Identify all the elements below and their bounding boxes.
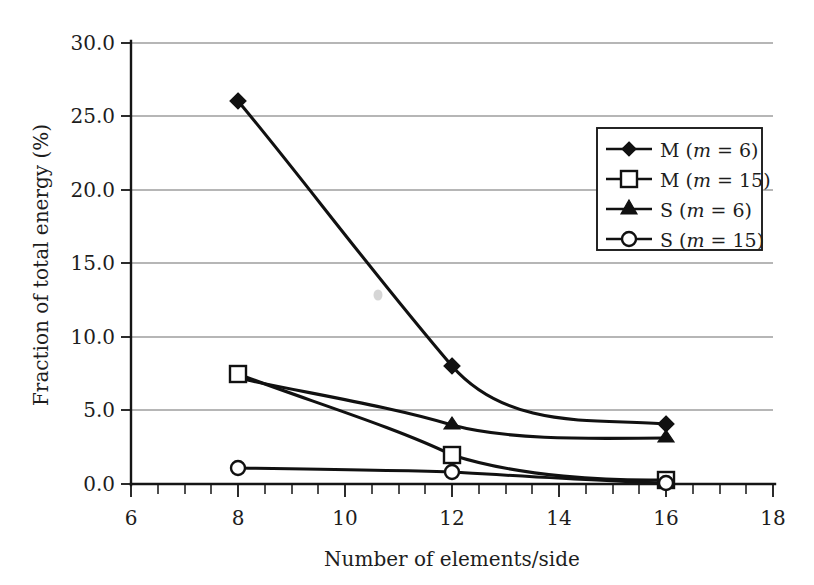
marker-s-15-x12[interactable] [445, 465, 459, 479]
y-tick-label-30: 30.0 [70, 31, 115, 55]
marker-m-15-x8[interactable] [230, 366, 246, 382]
chart-legend: M (m = 6) M (m = 15) S (m = 6) S (m = 15… [597, 128, 771, 251]
x-tick-label-18: 18 [760, 506, 785, 530]
chart-background [0, 0, 814, 585]
line-chart-canvas: 30.0 25.0 20.0 15.0 10.0 5.0 0.0 [0, 0, 814, 585]
y-tick-label-25: 25.0 [70, 104, 115, 128]
legend-label-m-15: M (m = 15) [660, 169, 771, 191]
y-tick-label-10: 10.0 [70, 325, 115, 349]
legend-label-s-15: S (m = 15) [660, 229, 764, 251]
legend-label-m-6: M (m = 6) [660, 139, 758, 161]
x-tick-label-8: 8 [232, 506, 245, 530]
legend-item-m-15[interactable]: M (m = 15) [606, 169, 771, 191]
y-tick-label-0: 0.0 [83, 472, 115, 496]
y-tick-label-20: 20.0 [70, 178, 115, 202]
x-tick-label-10: 10 [332, 506, 357, 530]
y-tick-label-5: 5.0 [83, 398, 115, 422]
marker-s-15-x8[interactable] [231, 461, 245, 475]
scan-artifact-spot [374, 290, 383, 301]
marker-m-15-x12[interactable] [444, 447, 460, 463]
x-tick-label-16: 16 [653, 506, 678, 530]
x-tick-label-12: 12 [439, 506, 464, 530]
y-tick-label-15: 15.0 [70, 251, 115, 275]
x-tick-label-14: 14 [546, 506, 571, 530]
open-circle-icon [622, 232, 636, 246]
x-tick-label-6: 6 [125, 506, 138, 530]
marker-s-15-x16[interactable] [659, 476, 673, 490]
open-square-icon [621, 171, 637, 187]
legend-label-s-6: S (m = 6) [660, 199, 752, 221]
x-axis-title: Number of elements/side [324, 547, 580, 571]
y-axis-title: Fraction of total energy (%) [29, 124, 53, 406]
chart-figure: 30.0 25.0 20.0 15.0 10.0 5.0 0.0 [0, 0, 814, 585]
